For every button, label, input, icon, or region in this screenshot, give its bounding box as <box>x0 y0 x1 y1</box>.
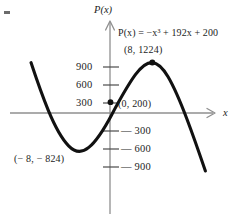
local-minimum-label: (− 8, − 824) <box>14 154 64 164</box>
y-tick-label-minus-900: — 900 <box>121 162 151 173</box>
y-intercept-point-marker <box>108 99 114 105</box>
equation-label: P(x) = −x³ + 192x + 200 <box>118 28 218 38</box>
y-tick-label-600: 600 <box>76 80 92 91</box>
y-tick-label-300: 300 <box>76 98 92 109</box>
y-tick-label-900: 900 <box>76 62 92 73</box>
y-axis-label: P(x) <box>94 5 112 16</box>
y-tick-label-minus-600: — 600 <box>121 144 151 155</box>
y-tick-marks-negative <box>103 131 119 167</box>
local-maximum-point-marker <box>149 60 155 66</box>
local-maximum-label: (8, 1224) <box>124 45 162 55</box>
y-intercept-label: (0, 200) <box>118 99 151 109</box>
y-tick-marks-positive <box>103 67 119 103</box>
y-tick-label-minus-300: — 300 <box>121 126 151 137</box>
x-axis-label: x <box>223 108 228 119</box>
